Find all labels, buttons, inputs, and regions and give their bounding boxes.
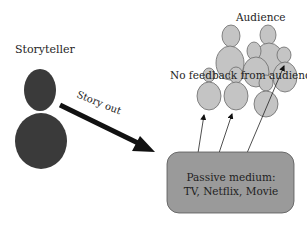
story-diagram: Storyteller Story out Audience No feedba… [0,0,307,227]
feedback-label: No feedback from audience [170,69,307,81]
medium-line2: TV, Netflix, Movie [184,185,279,197]
audience-body [197,82,221,110]
audience-label: Audience [235,11,286,23]
audience-head [222,25,240,47]
audience-body [224,82,248,110]
storyteller-label: Storyteller [15,43,76,56]
storyteller-body [15,113,67,169]
audience-body [254,91,278,117]
storyteller-head [24,69,56,111]
feedback-arrow [198,115,204,153]
medium-line1: Passive medium: [187,171,276,183]
audience-head [277,47,291,63]
arrow-label: Story out [75,89,123,117]
feedback-arrow [219,114,232,153]
story-out-arrow [60,105,155,152]
audience-head [260,25,276,45]
storyteller-figure [15,69,67,169]
passive-medium-box: Passive medium: TV, Netflix, Movie [167,152,294,213]
